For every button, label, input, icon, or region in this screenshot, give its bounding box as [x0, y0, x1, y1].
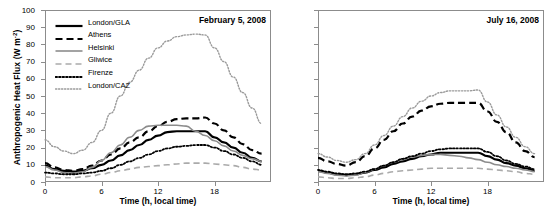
y-tick-label: 20 — [13, 143, 35, 152]
y-tick-label: 100 — [13, 6, 35, 15]
legend-item-helsinki[interactable]: Helsinki — [55, 41, 130, 54]
x-tick — [431, 182, 432, 186]
legend-swatch — [55, 17, 83, 27]
legend-item-london-caz[interactable]: London/CAZ — [55, 79, 130, 92]
legend-item-firenze[interactable]: Firenze — [55, 66, 130, 79]
legend-item-london-gla[interactable]: London/GLA — [55, 16, 130, 29]
x-axis-title-right: Time (h, local time) — [318, 196, 544, 206]
legend-swatch — [55, 68, 83, 78]
legend-label: Firenze — [88, 69, 113, 77]
x-tick — [318, 182, 319, 186]
y-tick-label: 80 — [13, 40, 35, 49]
legend-label: Gliwice — [88, 56, 112, 64]
legend-swatch — [55, 30, 83, 40]
x-tick — [158, 182, 159, 186]
data-curves-right — [318, 10, 544, 182]
x-tick-label: 18 — [210, 187, 219, 196]
legend-item-gliwice[interactable]: Gliwice — [55, 54, 130, 67]
legend-swatch — [55, 55, 83, 65]
x-tick — [102, 182, 103, 186]
y-tick-label: 70 — [13, 57, 35, 66]
x-tick-label: 6 — [372, 187, 376, 196]
panel-title-left: February 5, 2008 — [199, 15, 266, 25]
y-tick-label: 10 — [13, 160, 35, 169]
legend-label: London/CAZ — [88, 82, 130, 90]
chart-panel-july: July 16, 2008 061218 — [318, 10, 544, 182]
legend: London/GLAAthensHelsinkiGliwiceFirenzeLo… — [55, 16, 130, 92]
y-tick-label: 50 — [13, 92, 35, 101]
legend-swatch — [55, 80, 83, 90]
x-tick — [375, 182, 376, 186]
y-tick-label: 40 — [13, 109, 35, 118]
x-tick-label: 12 — [154, 187, 163, 196]
legend-label: Athens — [88, 31, 111, 39]
x-axis-title-left: Time (h, local time) — [45, 196, 271, 206]
y-tick-label: 90 — [13, 23, 35, 32]
panel-title-right: July 16, 2008 — [487, 15, 539, 25]
y-tick-label: 30 — [13, 126, 35, 135]
x-tick — [488, 182, 489, 186]
x-tick — [215, 182, 216, 186]
legend-swatch — [55, 42, 83, 52]
x-tick-label: 18 — [483, 187, 492, 196]
x-tick-label: 0 — [43, 187, 47, 196]
legend-label: London/GLA — [88, 19, 130, 27]
x-tick — [45, 182, 46, 186]
y-axis-title-exponent: -2 — [12, 33, 18, 39]
series-line-helsinki — [45, 125, 262, 173]
figure-anthropogenic-heat-flux: Anthropogenic Heat Flux (W m-2) February… — [0, 0, 546, 222]
x-tick-label: 12 — [427, 187, 436, 196]
y-tick-label: 0 — [13, 178, 35, 187]
legend-label: Helsinki — [88, 44, 114, 52]
y-tick-label: 60 — [13, 74, 35, 83]
legend-item-athens[interactable]: Athens — [55, 29, 130, 42]
x-tick-label: 6 — [99, 187, 103, 196]
x-tick-label: 0 — [316, 187, 320, 196]
chart-panel-february: February 5, 2008 0102030405060708090100 … — [45, 10, 271, 182]
